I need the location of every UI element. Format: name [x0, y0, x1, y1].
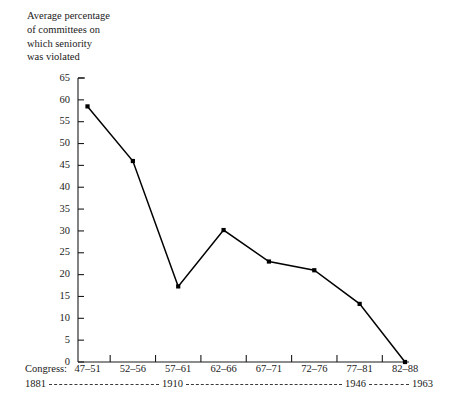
x-axis-tick-label: 82–88: [377, 362, 433, 376]
year-axis-connector: [49, 384, 159, 385]
y-axis-tick-label: 15: [44, 291, 70, 302]
y-axis-tick-label: 30: [44, 226, 70, 237]
y-axis-tick-label: 35: [44, 204, 70, 215]
x-axis-ticks: [110, 355, 382, 362]
series-line: [88, 106, 406, 362]
y-axis-ticks: [78, 78, 84, 362]
year-axis-label: 1946: [345, 377, 366, 391]
y-axis-tick-label: 5: [44, 335, 70, 346]
y-axis-tick-label: 10: [44, 313, 70, 324]
year-axis-row: 1881191019461963: [0, 377, 450, 391]
y-axis-tick-label: 65: [44, 73, 70, 84]
year-axis-label: 1910: [162, 377, 183, 391]
data-point-marker: [131, 159, 135, 163]
data-point-marker: [221, 228, 225, 232]
year-axis-connector: [186, 384, 342, 385]
data-point-marker: [267, 259, 271, 263]
data-point-marker: [176, 284, 180, 288]
axis-spines: [78, 78, 409, 362]
chart-figure: Average percentage of committees on whic…: [0, 0, 450, 398]
data-point-marker: [312, 268, 316, 272]
year-axis-connector: [369, 384, 409, 385]
y-axis-tick-label: 20: [44, 269, 70, 280]
y-axis-tick-label: 60: [44, 95, 70, 106]
year-axis-label: 1881: [25, 377, 46, 391]
y-axis-tick-label: 25: [44, 247, 70, 258]
y-axis-tick-label: 45: [44, 160, 70, 171]
y-axis-tick-label: 40: [44, 182, 70, 193]
congress-axis-row: Congress: 47–5152–5657–6162–6667–7172–76…: [0, 362, 450, 376]
series-markers: [85, 104, 407, 364]
y-axis-tick-label: 50: [44, 138, 70, 149]
data-point-marker: [85, 104, 89, 108]
data-point-marker: [358, 302, 362, 306]
year-axis-label: 1963: [412, 377, 433, 391]
y-axis-tick-label: 55: [44, 116, 70, 127]
